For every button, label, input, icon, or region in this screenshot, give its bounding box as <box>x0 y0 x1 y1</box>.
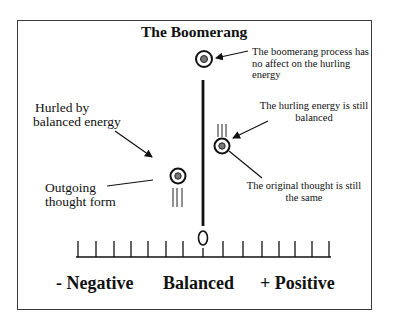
balanced-label: Balanced <box>163 274 234 292</box>
right-lower-note: The original thought is still the same <box>246 180 362 203</box>
negative-label: - Negative <box>56 274 133 292</box>
top-note-arrow-icon <box>216 51 248 58</box>
speed-lines-icon <box>218 124 226 137</box>
right-lower-note-line: the same <box>246 192 362 204</box>
right-upper-note-line: balanced <box>258 112 370 124</box>
left-upper-note: Hurled by balanced energy <box>33 101 121 129</box>
top-thought-form-icon <box>196 51 212 67</box>
left-upper-arrow-icon <box>115 131 152 157</box>
right-upper-note: The hurling energy is still balanced <box>258 100 370 123</box>
right-upper-arrow-icon <box>233 121 268 138</box>
speed-lines-icon <box>173 188 182 207</box>
positive-label: + Positive <box>260 274 335 292</box>
left-lower-note: Outgoing thought form <box>45 181 116 209</box>
right-upper-note-line: The hurling energy is still <box>258 100 370 112</box>
returning-thought-form-icon <box>215 139 230 154</box>
top-note-line: no affect on the hurling <box>252 58 369 70</box>
left-upper-note-line: balanced energy <box>33 115 121 129</box>
left-upper-note-line: Hurled by <box>33 101 121 115</box>
top-note-line: The boomerang process has <box>252 46 369 58</box>
top-note: The boomerang process has no affect on t… <box>252 46 369 81</box>
outgoing-thought-form-icon <box>171 169 186 184</box>
balance-center-marker-icon <box>199 231 208 245</box>
left-lower-note-line: Outgoing <box>45 181 116 195</box>
diagram-title: The Boomerang <box>141 24 247 40</box>
right-lower-note-line: The original thought is still <box>246 180 362 192</box>
balance-scale <box>76 241 331 257</box>
right-lower-pointer-line <box>229 151 262 178</box>
top-note-line: energy <box>252 69 369 81</box>
left-lower-note-line: thought form <box>45 195 116 209</box>
